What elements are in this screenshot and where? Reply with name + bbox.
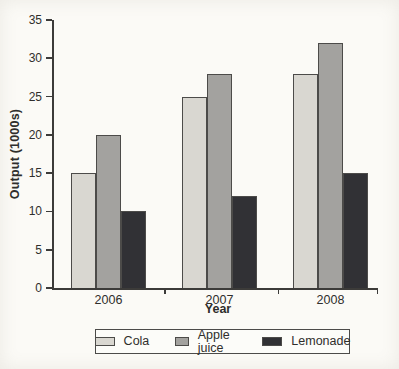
legend-swatch-lemonade (262, 337, 282, 346)
y-tick-label: 25 (0, 91, 42, 103)
legend-label-cola: Cola (124, 335, 150, 348)
legend-swatch-apple-juice (175, 337, 188, 346)
bar-lemonade-2006 (121, 211, 146, 288)
bar-cola-2007 (182, 97, 207, 288)
x-tick-mark (164, 289, 166, 294)
x-tick-mark (278, 289, 280, 294)
legend-label-lemonade: Lemonade (291, 335, 350, 348)
y-tick-label: 20 (0, 129, 42, 141)
bar-cola-2008 (293, 74, 318, 288)
legend: ColaApple juiceLemonade (95, 329, 350, 354)
legend-item-cola: Cola (95, 335, 150, 348)
y-tick-label: 0 (0, 282, 42, 294)
x-tick-label-2006: 2006 (79, 293, 139, 307)
bar-chart-figure: Output (1000s) 05101520253035 2006200720… (0, 0, 399, 369)
y-tick-label: 30 (0, 52, 42, 64)
bar-lemonade-2008 (343, 173, 368, 288)
x-axis-title: Year (168, 302, 268, 316)
legend-swatch-cola (95, 337, 115, 346)
y-axis-title: Output (1000s) (8, 109, 22, 199)
y-tick-label: 15 (0, 167, 42, 179)
y-axis-line (52, 20, 54, 288)
bar-apple-juice-2007 (207, 74, 232, 288)
bar-apple-juice-2006 (96, 135, 121, 288)
legend-item-apple-juice: Apple juice (175, 329, 236, 355)
y-tick-label: 5 (0, 244, 42, 256)
y-tick-label: 10 (0, 205, 42, 217)
bar-lemonade-2007 (232, 196, 257, 288)
legend-item-lemonade: Lemonade (262, 335, 350, 348)
y-tick-label: 35 (0, 14, 42, 26)
legend-label-apple-juice: Apple juice (198, 329, 237, 355)
x-tick-label-2008: 2008 (301, 293, 361, 307)
bar-apple-juice-2008 (318, 43, 343, 288)
x-tick-mark (377, 289, 379, 294)
bar-cola-2006 (71, 173, 96, 288)
x-axis-line (52, 288, 378, 290)
